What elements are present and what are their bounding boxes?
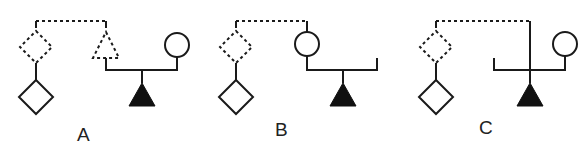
dashed-diamond-icon — [20, 31, 52, 63]
panel-c: C — [419, 21, 577, 138]
solid-diamond-icon — [19, 80, 53, 114]
circle-female-icon — [553, 32, 577, 56]
dashed-diamond-icon — [220, 31, 252, 63]
solid-diamond-icon — [419, 80, 453, 114]
panel-b: B — [219, 21, 377, 140]
filled-triangle-icon — [517, 83, 543, 106]
panel-label-c: C — [479, 117, 493, 138]
dashed-triangle-icon — [93, 32, 119, 58]
solid-diamond-icon — [219, 80, 253, 114]
sibship-line — [307, 56, 377, 70]
dashed-diamond-icon — [420, 31, 452, 63]
pedigree-diagram: A B C — [0, 0, 587, 150]
panel-a: A — [19, 21, 189, 145]
filled-triangle-icon — [129, 83, 155, 106]
filled-triangle-icon — [330, 83, 356, 106]
circle-female-icon — [165, 33, 189, 57]
circle-female-icon — [295, 32, 319, 56]
panel-label-a: A — [77, 124, 90, 145]
panel-label-b: B — [275, 119, 288, 140]
